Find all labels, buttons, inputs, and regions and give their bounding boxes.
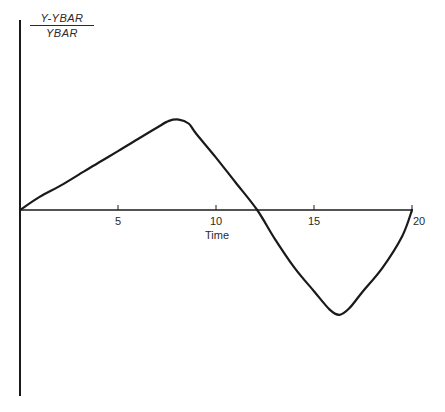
x-tick-label: 20 [413,215,425,227]
x-axis-tick-labels: 5101520 [115,215,425,227]
x-tick-label: 5 [115,215,121,227]
x-axis-label: Time [205,229,229,241]
x-tick-label: 15 [308,215,320,227]
chart-canvas: 5101520 Time [0,0,445,412]
x-tick-label: 10 [210,215,222,227]
